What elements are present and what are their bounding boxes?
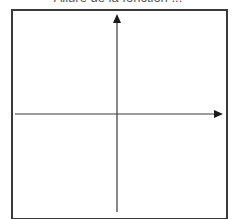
y-axis [113, 14, 121, 212]
coordinate-axes [0, 0, 236, 219]
y-axis-arrow-icon [113, 14, 121, 23]
x-axis [15, 110, 223, 118]
x-axis-arrow-icon [214, 110, 223, 118]
